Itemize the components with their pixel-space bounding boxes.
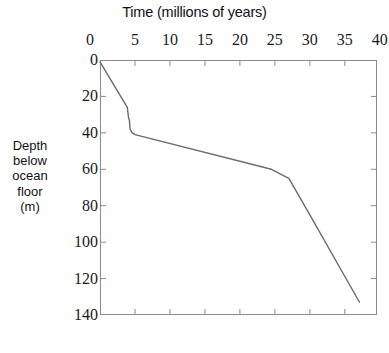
x-tick-label: 15 <box>197 30 213 50</box>
x-tick-label: 25 <box>267 30 283 50</box>
x-tick-label: 30 <box>302 30 318 50</box>
y-axis-label-line: Depth <box>2 138 58 153</box>
data-line-sediment-accumulation <box>100 62 360 302</box>
y-tick-label: 40 <box>82 124 98 142</box>
y-axis-label-line: floor <box>2 184 58 199</box>
x-tick-label: 35 <box>337 30 353 50</box>
data-line-svg <box>100 60 377 315</box>
x-tick-label: 10 <box>162 30 178 50</box>
y-axis-label-line: below <box>2 153 58 168</box>
y-tick-label: 60 <box>82 160 98 178</box>
y-tick-label: 0 <box>90 51 98 69</box>
y-axis-tick-labels: 020406080100120140 <box>56 0 98 353</box>
plot-area <box>100 60 377 315</box>
y-tick-label: 80 <box>82 197 98 215</box>
y-axis-label-line: (m) <box>2 199 58 214</box>
y-tick-label: 140 <box>74 306 98 324</box>
y-axis-label-line: ocean <box>2 168 58 183</box>
y-tick-label: 120 <box>74 270 98 288</box>
y-tick-label: 100 <box>74 233 98 251</box>
y-tick-label: 20 <box>82 87 98 105</box>
y-axis-label: Depthbelowoceanfloor(m) <box>2 138 58 214</box>
x-tick-label: 20 <box>232 30 248 50</box>
x-tick-label: 5 <box>131 30 139 50</box>
chart-figure: Time (millions of years) 051015202530354… <box>0 0 389 353</box>
x-tick-label: 40 <box>372 30 388 50</box>
